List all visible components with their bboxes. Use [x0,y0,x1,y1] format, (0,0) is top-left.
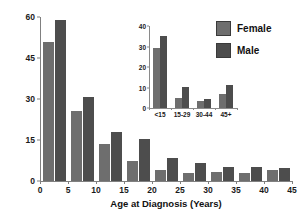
main-x-tick-label: 45 [287,185,296,195]
inset-y-tick-mark [147,87,149,88]
main-x-tick-mark [292,181,293,184]
inset-x-tick-label: 30-44 [196,111,213,118]
main-x-tick-mark [208,181,209,184]
main-bar-male-35-40 [251,167,263,181]
main-x-tick-label: 30 [203,185,212,195]
legend-label-female: Female [237,23,271,34]
main-bar-female-20-25 [155,170,167,181]
legend-swatch-male-icon [216,43,231,58]
main-x-tick-mark [180,181,181,184]
main-x-tick-label: 35 [231,185,240,195]
main-bar-male-30-35 [223,167,235,181]
inset-bar-female-30-44 [197,101,204,108]
main-x-tick-label: 0 [38,185,43,195]
main-x-axis-line [40,181,292,182]
inset-x-tick-mark [215,108,216,110]
main-y-tick-mark [37,58,40,59]
main-x-tick-label: 15 [119,185,128,195]
inset-x-tick-mark [171,108,172,110]
inset-y-tick-mark [147,46,149,47]
main-bar-female-5-10 [71,111,83,181]
inset-x-tick-label: <15 [154,111,165,118]
main-x-tick-mark [236,181,237,184]
main-x-tick-label: 25 [175,185,184,195]
inset-x-tick-label: 15-29 [174,111,191,118]
main-x-tick-label: 10 [91,185,100,195]
main-bar-male-25-30 [195,163,207,181]
main-bar-female-40-45 [267,170,279,181]
main-x-tick-mark [68,181,69,184]
legend-label-male: Male [237,45,259,56]
main-x-tick-mark [264,181,265,184]
legend-swatch-female-icon [216,21,231,36]
inset-bar-female-45+ [219,94,226,108]
main-x-axis-label: Age at Diagnosis (Years) [40,198,292,209]
main-x-tick-label: 20 [147,185,156,195]
inset-bar-female-<15 [153,48,160,108]
main-bar-male-0-5 [55,20,67,181]
inset-bar-male-45+ [226,85,233,108]
main-y-tick-mark [37,140,40,141]
inset-x-tick-mark [193,108,194,110]
main-x-tick-mark [96,181,97,184]
main-bar-female-30-35 [211,172,223,181]
main-x-tick-label: 40 [259,185,268,195]
main-bar-male-40-45 [279,168,291,181]
main-bar-female-25-30 [183,173,195,181]
main-bar-male-10-15 [111,132,123,181]
inset-bar-male-30-44 [204,99,211,108]
inset-y-tick-mark [147,26,149,27]
main-bar-male-20-25 [167,158,179,182]
main-x-tick-mark [124,181,125,184]
legend-item-male: Male [216,43,304,58]
inset-x-tick-label: 45+ [220,111,231,118]
main-x-tick-mark [40,181,41,184]
main-bar-male-15-20 [139,139,151,181]
main-bar-female-10-15 [99,144,111,181]
main-x-tick-label: 5 [66,185,71,195]
main-x-tick-mark [152,181,153,184]
chart-figure: Incidence per Year per Million Age at Di… [0,0,307,224]
legend-item-female: Female [216,21,304,36]
inset-bar-female-15-29 [175,98,182,108]
main-bar-male-5-10 [83,97,95,181]
inset-bar-male-<15 [160,36,167,108]
inset-x-tick-mark [237,108,238,110]
main-bar-female-35-40 [239,173,251,181]
main-y-tick-mark [37,17,40,18]
main-y-tick-mark [37,99,40,100]
main-bar-female-15-20 [127,161,139,182]
main-bar-female-0-5 [43,42,55,181]
inset-bar-male-15-29 [182,87,189,108]
inset-x-tick-mark [149,108,150,110]
legend: Female Male [216,21,304,65]
inset-y-tick-mark [147,67,149,68]
